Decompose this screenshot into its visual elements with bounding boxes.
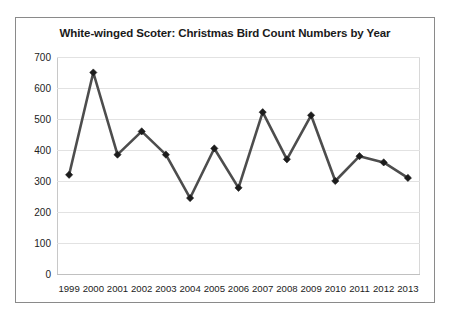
x-tick-label-2005: 2005 — [204, 283, 225, 294]
x-tick-label-2008: 2008 — [276, 283, 297, 294]
x-tick-label-2003: 2003 — [155, 283, 176, 294]
x-tick-label-2004: 2004 — [179, 283, 200, 294]
series-plot — [57, 57, 420, 274]
x-tick-label-2013: 2013 — [397, 283, 418, 294]
x-tick-label-2001: 2001 — [107, 283, 128, 294]
y-tick-label-600: 600 — [34, 83, 51, 94]
y-tick-label-200: 200 — [34, 207, 51, 218]
x-tick-label-2002: 2002 — [131, 283, 152, 294]
x-tick-label-2010: 2010 — [325, 283, 346, 294]
y-tick-label-300: 300 — [34, 176, 51, 187]
x-tick-label-2007: 2007 — [252, 283, 273, 294]
x-tick-label-2012: 2012 — [373, 283, 394, 294]
plot-area: 0100200300400500600700 19992000200120022… — [57, 57, 420, 274]
y-tick-label-0: 0 — [45, 269, 51, 280]
y-tick-label-700: 700 — [34, 52, 51, 63]
data-point-2000 — [90, 69, 97, 76]
chart-figure-frame: White-winged Scoter: Christmas Bird Coun… — [15, 17, 435, 303]
data-point-1999 — [66, 171, 73, 178]
y-tick-label-100: 100 — [34, 238, 51, 249]
x-tick-label-2011: 2011 — [349, 283, 370, 294]
chart-title: White-winged Scoter: Christmas Bird Coun… — [16, 27, 434, 39]
x-tick-label-1999: 1999 — [58, 283, 79, 294]
series-line-white-winged-scoter — [69, 73, 408, 199]
y-tick-label-500: 500 — [34, 114, 51, 125]
y-tick-label-400: 400 — [34, 145, 51, 156]
gridline-0 — [57, 274, 420, 275]
x-tick-label-2000: 2000 — [83, 283, 104, 294]
x-tick-label-2006: 2006 — [228, 283, 249, 294]
x-tick-label-2009: 2009 — [300, 283, 321, 294]
